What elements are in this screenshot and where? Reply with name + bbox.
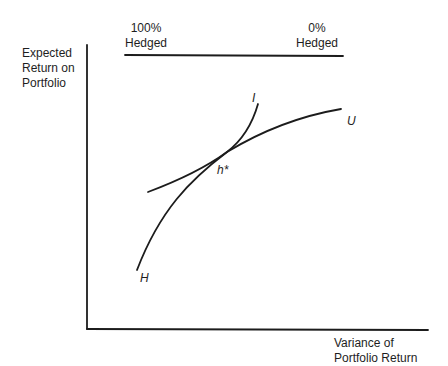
y-axis-label: Expected Return on Portfolio	[22, 46, 75, 91]
x-axis-label-line-2: Portfolio Return	[334, 351, 417, 366]
curve-to-u	[148, 109, 341, 192]
hedge-100-word: Hedged	[125, 36, 167, 51]
y-axis-label-line-2: Return on	[22, 61, 75, 76]
hedge-100-label: 100% Hedged	[125, 21, 167, 51]
x-axis	[87, 329, 428, 330]
x-axis-label-line-1: Variance of	[334, 336, 417, 351]
curve-label-h: H	[140, 271, 149, 285]
hedge-0-label: 0% Hedged	[296, 21, 338, 51]
tangency-point-label: h*	[217, 163, 228, 177]
hedge-100-percent: 100%	[125, 21, 167, 36]
curve-label-i: I	[252, 91, 255, 105]
curve-h-to-i	[137, 104, 258, 270]
y-axis-label-line-1: Expected	[22, 46, 75, 61]
hedge-0-word: Hedged	[296, 36, 338, 51]
y-axis-label-line-3: Portfolio	[22, 76, 75, 91]
hedge-0-percent: 0%	[296, 21, 338, 36]
x-axis-label: Variance of Portfolio Return	[334, 336, 417, 366]
hedging-diagram: Expected Return on Portfolio 100% Hedged…	[0, 0, 448, 366]
hedge-scale-line	[125, 55, 343, 56]
curve-label-u: U	[347, 114, 356, 128]
